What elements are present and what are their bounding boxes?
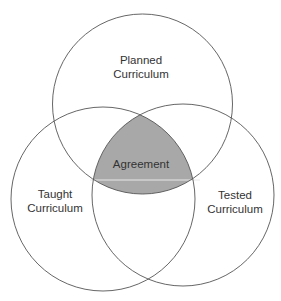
- tested-label-line1: Tested: [218, 189, 252, 201]
- planned-label-line2: Curriculum: [113, 68, 169, 80]
- taught-label-line1: Taught: [38, 188, 73, 200]
- venn-diagram: Planned Curriculum Agreement Taught Curr…: [0, 0, 281, 301]
- agreement-label: Agreement: [113, 158, 170, 170]
- tested-label-line2: Curriculum: [207, 203, 263, 215]
- planned-label-line1: Planned: [120, 54, 162, 66]
- taught-label-line2: Curriculum: [27, 202, 83, 214]
